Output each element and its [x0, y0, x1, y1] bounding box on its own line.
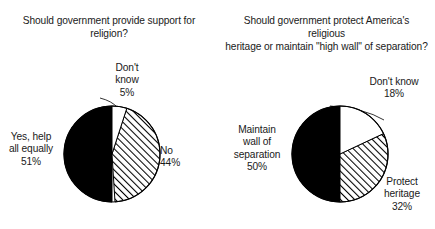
pie-slice-yes-help-all-equally — [64, 106, 112, 202]
pie-chart-figure: Should government provide support for re… — [0, 0, 435, 229]
pie-label-no: No 44% — [160, 145, 204, 170]
pie-label-dont-know-right: Don't know 18% — [354, 76, 434, 101]
pie-label-maintain-wall-of-separation: Maintain wall of separation 50% — [220, 124, 294, 174]
pie-label-yes-help-all-equally: Yes, help all equally 51% — [0, 131, 62, 168]
pie-label-dont-know-left: Don't know 5% — [96, 62, 158, 99]
pie-graphic-left — [0, 0, 218, 229]
pie-slice-maintain-wall-of-separation — [292, 106, 340, 202]
chart-panel-right: Should government protect America's reli… — [218, 0, 435, 229]
pie-label-protect-heritage: Protect heritage 32% — [373, 176, 431, 213]
chart-panel-left: Should government provide support for re… — [0, 0, 218, 229]
